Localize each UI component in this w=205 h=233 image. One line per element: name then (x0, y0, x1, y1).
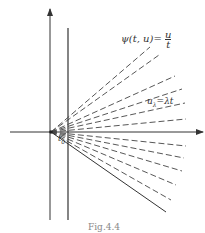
t0-label: t0 (58, 134, 65, 145)
psi-label: ψ(t, u)= u t (121, 30, 171, 49)
t0-sub: 0 (61, 138, 65, 145)
psi-denominator: t (165, 40, 171, 49)
psi-lhs: ψ(t, u)= (121, 33, 162, 44)
ray-label: uλ=λt (147, 96, 173, 108)
origin-point (49, 130, 53, 134)
characteristic-rays (51, 47, 186, 200)
figure-caption: Fig.4.4 (88, 222, 120, 232)
diagram-canvas (0, 0, 205, 233)
ray-rhs: =λt (157, 96, 174, 106)
